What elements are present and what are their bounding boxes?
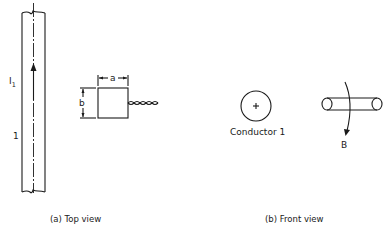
caption-front-view: (b) Front view <box>265 214 324 224</box>
dim-a-arrow-left-icon <box>99 77 103 80</box>
b-field-curve <box>345 82 350 131</box>
current-label: I1 <box>9 76 16 89</box>
dim-b-arrow-bottom-icon <box>82 113 85 117</box>
dim-a-label: a <box>110 73 116 83</box>
loop-end-right <box>372 98 382 110</box>
rectangular-loop: a b <box>79 73 158 118</box>
dim-b-arrow-top-icon <box>82 89 85 93</box>
loop-end-left <box>322 98 332 110</box>
loop-edge-view <box>322 82 382 136</box>
dim-a-arrow-right-icon <box>123 77 127 80</box>
b-field-label: B <box>341 140 347 150</box>
caption-top-view: (a) Top view <box>50 214 101 224</box>
diagram-canvas: I1 1 a b (a) Top view Conductor 1 <box>0 0 390 236</box>
conductor-number-label: 1 <box>13 131 19 141</box>
loop-square <box>98 88 128 118</box>
conductor-1-cross-section <box>241 91 271 121</box>
conductor-label: Conductor 1 <box>230 127 285 137</box>
conductor-1-strip <box>22 3 45 193</box>
current-arrow-head-icon <box>31 63 37 71</box>
b-field-arrow-icon <box>344 129 350 136</box>
dim-b-label: b <box>79 98 85 108</box>
